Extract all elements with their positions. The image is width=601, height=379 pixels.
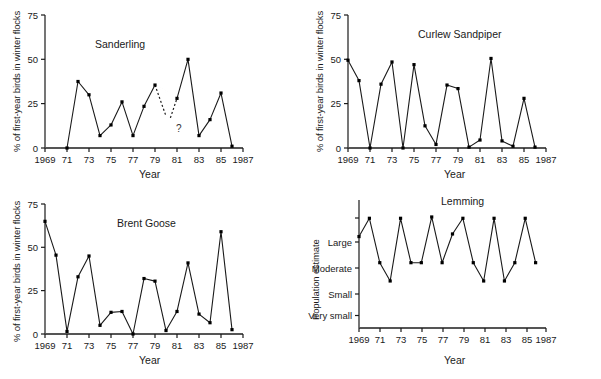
chart-title-brent: Brent Goose [117,217,176,229]
data-point-marker [492,217,495,220]
data-point-marker [451,232,454,235]
data-point-marker [524,217,527,220]
data-point-marker [489,57,492,60]
chart-title-sanderling: Sanderling [95,38,145,50]
y-tick-small: Small [328,289,352,300]
x-tick-75: 75 [106,340,117,351]
x-tick-71: 71 [375,334,386,345]
data-point-marker [399,217,402,220]
x-tick-85: 85 [522,334,533,345]
x-tick-73: 73 [387,154,398,165]
data-point-marker [153,83,156,86]
data-point-marker [109,123,112,126]
x-tick-75: 75 [106,154,117,165]
data-point-marker [142,277,145,280]
data-point-marker [230,328,233,331]
data-point-marker [131,332,134,335]
data-point-marker [467,146,470,149]
x-tick-77: 77 [431,154,442,165]
data-point-marker [445,83,448,86]
chart-panel-sanderling: % of first-year birds in winter flocks S… [0,0,300,190]
data-point-marker [357,79,360,82]
data-point-marker [120,310,123,313]
x-tick-85: 85 [519,154,530,165]
series-line [45,221,232,334]
y-tick-0: 0 [33,143,38,154]
gap-mask [155,85,177,98]
dashed-gap-segment [170,98,177,118]
plot-area-sanderling: 75 50 25 0 1969 71 73 75 77 79 [0,0,300,190]
data-point-marker [346,59,349,62]
data-point-marker [208,321,211,324]
data-point-marker [219,91,222,94]
y-axis-label-sanderling: % of first-year birds in winter flocks [11,11,22,152]
x-tick-1969: 1969 [34,340,55,351]
x-tick-71: 71 [62,340,73,351]
y-axis-label-curlew: % of first-year birds in winter flocks [314,11,325,152]
plot-area-lemming: Large Moderate Small Very small 1969 71 … [300,190,601,379]
uncertainty-annotation-sanderling: ? [176,123,182,134]
data-series-brent-goose [43,220,233,336]
series-line [359,217,536,281]
data-point-marker [482,279,485,282]
y-axis-label-brent: % of first-year birds in winter flocks [11,201,22,342]
data-point-marker [175,97,178,100]
data-point-marker [164,329,167,332]
data-point-marker [420,261,423,264]
data-point-marker [175,310,178,313]
y-tick-75: 75 [330,10,341,21]
chart-panel-curlew-sandpiper: % of first-year birds in winter flocks C… [300,0,601,190]
data-point-marker [390,60,393,63]
data-point-marker [401,146,404,149]
y-tick-0: 0 [33,329,38,340]
series-line [348,58,535,148]
data-series-curlew-sandpiper [346,57,536,150]
data-point-marker [197,312,200,315]
x-tick-77: 77 [438,334,449,345]
data-point-marker [379,83,382,86]
x-tick-81: 81 [475,154,486,165]
x-tick-81: 81 [480,334,491,345]
data-point-marker [65,330,68,333]
x-tick-83: 83 [501,334,512,345]
data-point-marker [409,261,412,264]
data-point-marker [441,261,444,264]
data-point-marker [131,134,134,137]
data-point-marker [98,324,101,327]
data-point-marker [378,261,381,264]
x-tick-73: 73 [84,154,95,165]
x-tick-71: 71 [365,154,376,165]
x-tick-81: 81 [172,154,183,165]
data-point-marker [478,138,481,141]
data-point-marker [54,254,57,257]
y-tick-large: Large [328,237,352,248]
data-point-marker [76,80,79,83]
data-point-marker [43,220,46,223]
y-tick-75: 75 [27,199,38,210]
x-tick-85: 85 [216,154,227,165]
data-point-marker [368,217,371,220]
x-tick-1987: 1987 [535,334,556,345]
data-point-marker [434,143,437,146]
x-tick-1987: 1987 [535,154,556,165]
data-point-marker [186,261,189,264]
x-axis-label-brent: Year [139,354,160,366]
data-point-marker [357,235,360,238]
data-point-marker [197,134,200,137]
data-point-marker [412,63,415,66]
x-tick-1987: 1987 [232,154,253,165]
data-point-marker [142,105,145,108]
data-point-marker [65,146,68,149]
x-tick-79: 79 [453,154,464,165]
x-tick-85: 85 [216,340,227,351]
data-point-marker [109,311,112,314]
data-series-lemming [357,215,537,282]
x-tick-1969: 1969 [337,154,358,165]
data-point-marker [219,230,222,233]
y-tick-25: 25 [27,285,38,296]
x-tick-83: 83 [194,340,205,351]
y-tick-50: 50 [27,54,38,65]
chart-title-curlew: Curlew Sandpiper [418,28,501,40]
data-point-marker [430,215,433,218]
x-tick-75: 75 [417,334,428,345]
